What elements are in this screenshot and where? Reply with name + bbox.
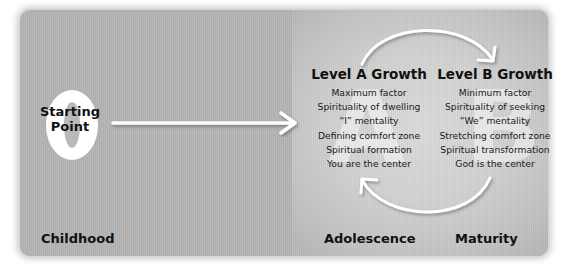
level-b-title: Level B Growth xyxy=(420,66,567,82)
stage-label-adolescence: Adolescence xyxy=(324,231,416,246)
list-item: “We” mentality xyxy=(420,114,567,128)
list-item: God is the center xyxy=(420,157,567,171)
list-item: Stretching comfort zone xyxy=(420,129,567,143)
level-b-column: Level B Growth Minimum factor Spirituali… xyxy=(420,66,567,171)
stage-label-maturity: Maturity xyxy=(455,231,518,246)
cycle-arrow-bottom-icon xyxy=(361,178,490,212)
list-item: Minimum factor xyxy=(420,86,567,100)
cycle-arrow-top-icon xyxy=(362,30,495,64)
level-b-list: Minimum factor Spirituality of seeking “… xyxy=(420,86,567,171)
list-item: Spirituality of seeking xyxy=(420,100,567,114)
straight-arrow-icon xyxy=(113,113,295,133)
list-item: Spiritual transformation xyxy=(420,143,567,157)
stage-label-childhood: Childhood xyxy=(41,231,114,246)
